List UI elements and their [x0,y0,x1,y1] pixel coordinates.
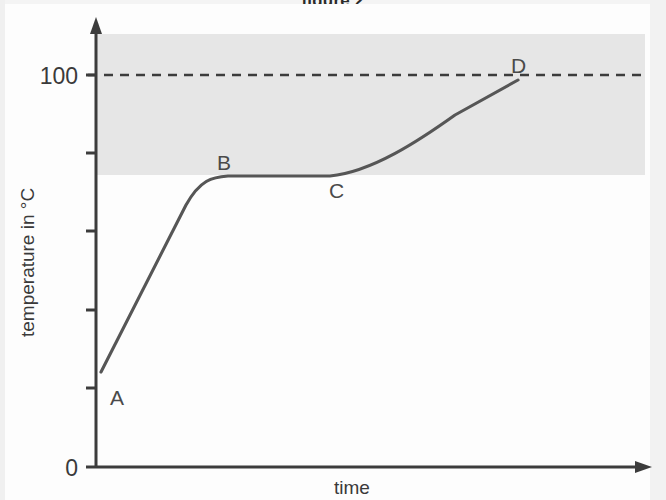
point-label-a: A [110,386,124,409]
point-label-d: D [511,54,526,77]
x-axis-arrow-icon [635,461,652,473]
y-axis-title: temperature in °C [17,188,38,337]
y-axis-tick-label-0: 0 [65,455,78,481]
point-label-c: C [329,179,344,202]
y-axis-arrow-icon [90,17,102,34]
y-axis-tick-label-100: 100 [40,63,78,89]
temperature-time-chart: 100 0 temperature in °C time A B C D [0,0,666,500]
point-label-b: B [217,151,231,174]
shaded-band [96,34,645,175]
x-axis-title: time [334,477,370,498]
figure-canvas: figure 2 100 0 temperature in °C time A … [0,0,666,500]
